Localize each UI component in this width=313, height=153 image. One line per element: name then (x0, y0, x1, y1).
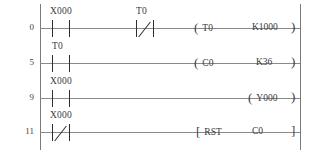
coil-open-paren: ( (194, 20, 198, 35)
contact-bar-left (52, 55, 53, 72)
rung-11: 11 X000 [RST C0 ] (0, 108, 313, 146)
contact-normally-open-icon[interactable] (48, 55, 74, 73)
coil-open-paren: ( (248, 90, 252, 105)
step-number: 0 (6, 21, 34, 33)
contact-normally-open-icon[interactable] (48, 90, 74, 108)
instruction-operand: C0 (252, 125, 263, 138)
step-number: 11 (6, 125, 34, 137)
contact-label: X000 (50, 110, 110, 121)
output-coil[interactable]: (Y000 (248, 91, 277, 105)
contact-bar-right (69, 55, 70, 72)
output-coil[interactable]: (T0 (194, 21, 213, 35)
contact-bar-right (69, 20, 70, 37)
coil-name: C0 (202, 58, 213, 68)
rung-9: 9 X000 (Y000 ) (0, 74, 313, 112)
contact-slash (50, 125, 72, 140)
contact-label: T0 (136, 6, 196, 17)
coil-operand: K36 (256, 56, 272, 69)
ladder-diagram: 0 X000 T0 (T0 K1000 ) 5 T0 (C0 K36 (0, 0, 313, 153)
contact-label: X000 (50, 6, 110, 17)
coil-name: T0 (202, 23, 213, 33)
coil-close-paren: ) (291, 90, 295, 104)
coil-close-paren: ) (291, 20, 295, 34)
contact-normally-closed-icon[interactable] (132, 20, 158, 38)
instruction-close-bracket: ] (291, 124, 295, 138)
rung-5: 5 T0 (C0 K36 ) (0, 39, 313, 77)
contact-bar-right (69, 90, 70, 107)
instruction-block[interactable]: [RST (196, 125, 222, 139)
instruction-name: RST (204, 127, 221, 137)
step-number: 5 (6, 56, 34, 68)
contact-bar-left (52, 90, 53, 107)
step-number: 9 (6, 91, 34, 103)
coil-close-paren: ) (291, 55, 295, 69)
contact-label: X000 (50, 76, 110, 87)
coil-open-paren: ( (194, 55, 198, 70)
rung-0: 0 X000 T0 (T0 K1000 ) (0, 4, 313, 42)
coil-name: Y000 (256, 93, 277, 103)
contact-normally-open-icon[interactable] (48, 20, 74, 38)
contact-label: T0 (52, 41, 112, 52)
output-coil[interactable]: (C0 (194, 56, 213, 70)
contact-slash (134, 21, 156, 36)
instruction-open-bracket: [ (196, 124, 200, 139)
contact-normally-closed-icon[interactable] (48, 124, 74, 142)
contact-bar-left (52, 20, 53, 37)
coil-operand: K1000 (252, 21, 278, 34)
